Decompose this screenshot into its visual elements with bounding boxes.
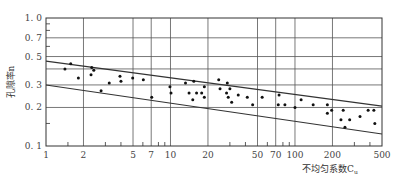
- data-point: [200, 91, 203, 94]
- data-point: [90, 73, 93, 76]
- data-point: [339, 118, 342, 121]
- x-tick-label: 100: [286, 150, 303, 160]
- x-axis-title: 不均匀系数Cu: [302, 163, 358, 175]
- y-tick-label: 0. 5: [25, 52, 42, 62]
- x-tick-label: 200: [324, 150, 341, 160]
- data-point: [230, 101, 233, 104]
- x-axis-title-main: 不均匀系数C: [302, 163, 354, 174]
- data-point: [312, 103, 315, 106]
- scatter-chart: 125710205070100200500 0. 10. 20. 30. 50.…: [0, 0, 401, 184]
- data-point: [191, 98, 194, 101]
- y-tick-label: 0. 3: [25, 80, 42, 90]
- data-point: [373, 122, 376, 125]
- upper-bound-line: [46, 61, 382, 106]
- x-tick-label: 7: [148, 150, 154, 160]
- x-tick-label: 500: [373, 150, 390, 160]
- data-point: [100, 89, 103, 92]
- data-point: [77, 76, 80, 79]
- x-axis-title-subscript: u: [354, 168, 358, 175]
- data-point: [330, 109, 333, 112]
- data-point: [278, 94, 281, 97]
- data-point: [69, 62, 72, 65]
- data-point: [217, 78, 220, 81]
- x-axis-ticks: 125710205070100200500: [43, 142, 391, 160]
- data-point: [92, 69, 95, 72]
- data-point: [246, 96, 249, 99]
- data-point: [63, 67, 66, 70]
- data-point: [168, 85, 171, 88]
- y-tick-label: 1. 0: [25, 13, 42, 23]
- data-point: [225, 91, 228, 94]
- data-point: [119, 80, 122, 83]
- data-point: [188, 91, 191, 94]
- data-points: [63, 62, 376, 129]
- data-point: [342, 109, 345, 112]
- data-point: [203, 85, 206, 88]
- data-point: [203, 96, 206, 99]
- data-point: [192, 80, 195, 83]
- data-point: [261, 96, 264, 99]
- data-point: [283, 103, 286, 106]
- data-point: [227, 96, 230, 99]
- x-tick-label: 20: [202, 150, 214, 160]
- y-tick-label: 0. 7: [25, 33, 42, 43]
- x-tick-label: 50: [252, 150, 264, 160]
- data-point: [277, 103, 280, 106]
- data-point: [150, 96, 153, 99]
- data-point: [326, 103, 329, 106]
- x-tick-label: 10: [165, 150, 177, 160]
- y-tick-label: 0. 2: [25, 102, 42, 112]
- x-tick-label: 5: [130, 150, 136, 160]
- data-point: [118, 75, 121, 78]
- data-point: [142, 78, 145, 81]
- data-point: [219, 87, 222, 90]
- data-point: [226, 82, 229, 85]
- data-point: [228, 87, 231, 90]
- data-point: [131, 76, 134, 79]
- y-tick-label: 0. 1: [25, 141, 42, 151]
- data-point: [195, 91, 198, 94]
- data-point: [184, 82, 187, 85]
- data-point: [348, 118, 351, 121]
- data-point: [359, 115, 362, 118]
- data-point: [170, 91, 173, 94]
- x-tick-label: 1: [43, 150, 49, 160]
- data-point: [293, 106, 296, 109]
- data-point: [372, 109, 375, 112]
- x-tick-label: 2: [81, 150, 87, 160]
- x-tick-label: 70: [270, 150, 282, 160]
- data-point: [237, 94, 240, 97]
- data-point: [251, 103, 254, 106]
- y-axis-title: 孔隙率n: [5, 65, 16, 98]
- data-point: [90, 66, 93, 69]
- envelope-lines: [46, 61, 382, 134]
- data-point: [343, 126, 346, 129]
- data-point: [300, 98, 303, 101]
- data-point: [326, 112, 329, 115]
- data-point: [367, 109, 370, 112]
- data-point: [108, 82, 111, 85]
